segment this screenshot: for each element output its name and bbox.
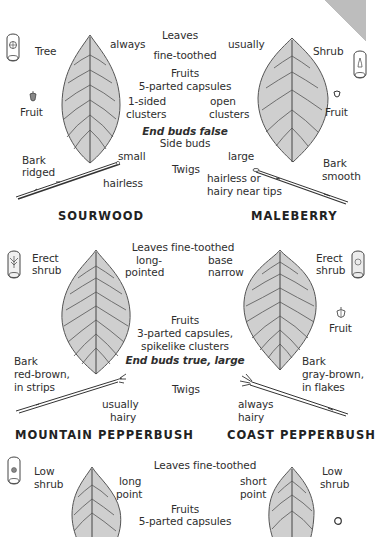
habit-label: Tree [35, 45, 56, 58]
right-bark-1: Bark [302, 355, 326, 368]
erect-shrub-habit-icon [351, 250, 366, 280]
left-leaf-note-2: pointed [125, 266, 164, 279]
right-twig-note-2: hairy [238, 411, 264, 424]
right-leaf-note: usually [228, 38, 265, 51]
twigs-heading: Twigs [172, 163, 200, 176]
right-habit-2: shrub [316, 264, 345, 277]
right-twig-note-1: always [238, 398, 273, 411]
leaves-heading: Leaves fine-toothed [118, 241, 248, 254]
leaves-detail: fine-toothed [140, 49, 230, 62]
shrub-habit-icon [353, 50, 366, 80]
low-shrub-habit-icon [7, 456, 21, 486]
tree-habit-icon [6, 33, 20, 63]
right-leaf-note-1: short [240, 475, 266, 488]
left-bud-note: small [118, 150, 145, 163]
right-fruit-note-1: open [210, 95, 236, 108]
maleberry-twig-illustration [254, 166, 350, 206]
end-buds-note: End buds true, large [120, 354, 250, 367]
fruits-detail-1: 3-parted capsules, [125, 327, 245, 340]
right-fruit-label: Fruit [325, 106, 348, 119]
low-shrub-right-leaf-illustration [266, 467, 316, 537]
right-fruit-label: Fruit [329, 322, 352, 335]
left-leaf-note-2: point [116, 488, 142, 501]
fruits-detail: 5-parted capsules [125, 515, 245, 528]
leaves-heading: Leaves [140, 29, 220, 42]
right-habit-2: shrub [320, 478, 349, 491]
species-name-sourwood: SOURWOOD [58, 209, 144, 223]
side-buds-heading: Side buds [130, 137, 240, 150]
species-name-coast-pepperbush: COAST PEPPERBUSH [227, 428, 376, 442]
left-habit-1: Low [34, 465, 54, 478]
left-habit-2: shrub [32, 264, 61, 277]
right-leaf-note-2: point [240, 488, 266, 501]
species-name-maleberry: MALEBERRY [251, 209, 338, 223]
sourwood-twig-illustration [16, 160, 122, 200]
right-fruit-note-2: clusters [209, 108, 249, 121]
low-shrub-left-leaf-illustration [70, 467, 124, 537]
fruits-detail-2: spikelike clusters [125, 340, 245, 353]
right-leaf-note-2: narrow [208, 266, 244, 279]
fruits-detail: 5-parted capsules [130, 80, 240, 93]
left-bark-1: Bark [14, 355, 38, 368]
leaves-heading: Leaves fine-toothed [140, 459, 270, 472]
left-fruit-note-1: 1-sided [128, 95, 166, 108]
left-twig-note-1: usually [102, 398, 139, 411]
fruit-capsule-icon [336, 307, 346, 319]
species-name-mountain-pepperbush: MOUNTAIN PEPPERBUSH [15, 428, 194, 442]
left-leaf-note-1: long [119, 475, 141, 488]
fruit-capsule-icon [333, 516, 343, 525]
fruits-heading: Fruits [130, 314, 240, 327]
coast-pepperbush-leaf-illustration [242, 250, 318, 372]
right-bud-note: large [228, 150, 254, 163]
sourwood-leaf-illustration [60, 35, 130, 165]
right-twig-note-1: hairless or [207, 172, 261, 185]
fruit-capsule-icon [333, 90, 341, 98]
fruits-heading: Fruits [140, 67, 230, 80]
erect-shrub-habit-icon [7, 250, 21, 280]
fruit-label: Fruit [20, 106, 43, 119]
twigs-heading: Twigs [172, 383, 200, 396]
left-fruit-note-2: clusters [126, 108, 166, 121]
fruit-capsule-icon [29, 91, 37, 103]
right-habit-label: Shrub [313, 45, 343, 58]
left-habit-2: shrub [34, 478, 63, 491]
right-habit-1: Low [322, 465, 342, 478]
left-twig-note-2: hairy [110, 411, 136, 424]
